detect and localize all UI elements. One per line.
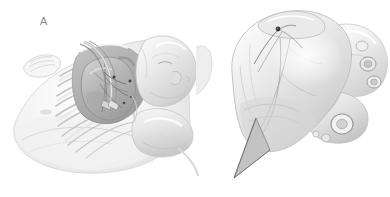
electrode-marker — [113, 76, 116, 79]
panel-a: A — [0, 0, 200, 197]
figure-container: A — [0, 0, 390, 197]
electrode-marker — [129, 80, 132, 83]
electrode-marker — [123, 102, 126, 105]
panel-a-illustration — [0, 0, 200, 197]
left-atrial-appendage — [258, 11, 325, 38]
panel-b: B — [196, 0, 390, 197]
panel-b-illustration — [196, 0, 390, 197]
surgeon-hand — [24, 55, 61, 77]
adjacent-body-sliver — [196, 46, 212, 95]
electrode-marker — [276, 27, 281, 32]
panel-label-a: A — [40, 16, 48, 27]
